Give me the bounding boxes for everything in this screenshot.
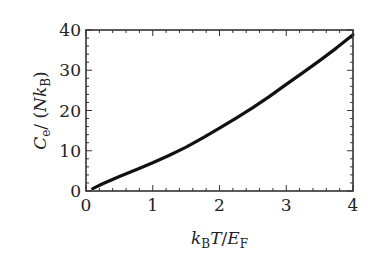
x-tick-label: 0 xyxy=(81,195,92,215)
axis-ticks xyxy=(86,30,353,191)
y-tick-label: 10 xyxy=(59,141,81,161)
x-tick-label: 4 xyxy=(348,195,359,215)
y-tick-label: 30 xyxy=(59,60,81,80)
x-axis-label: kBT/EF xyxy=(191,228,248,251)
tick-labels: 01234010203040 xyxy=(59,20,358,215)
y-tick-label: 40 xyxy=(59,20,81,40)
y-tick-label: 20 xyxy=(59,101,81,121)
x-tick-label: 2 xyxy=(214,195,225,215)
x-tick-label: 1 xyxy=(147,195,158,215)
plot-frame xyxy=(86,30,353,191)
y-tick-label: 0 xyxy=(70,181,81,201)
data-line xyxy=(93,35,353,189)
x-tick-label: 3 xyxy=(281,195,292,215)
chart: 01234010203040 kBT/EF Ce/ (NkB) xyxy=(0,0,373,263)
y-axis-label: Ce/ (NkB) xyxy=(30,71,53,150)
